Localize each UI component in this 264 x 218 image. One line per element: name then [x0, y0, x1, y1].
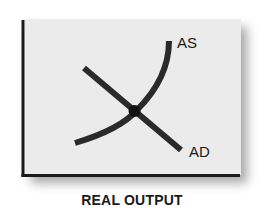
equilibrium-point: [129, 105, 141, 117]
as-ad-diagram: AS AD: [0, 0, 264, 218]
as-label: AS: [177, 34, 197, 51]
x-axis-label: REAL OUTPUT: [0, 192, 264, 208]
ad-label: AD: [189, 143, 210, 160]
